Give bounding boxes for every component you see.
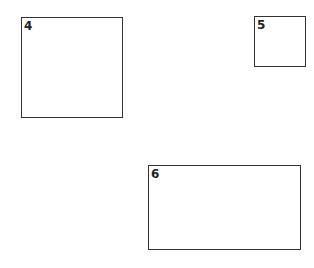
- box-6-label: 6: [151, 167, 159, 181]
- box-5-label: 5: [257, 18, 265, 32]
- box-6: 6: [148, 165, 301, 250]
- box-5: 5: [254, 16, 306, 67]
- box-4-label: 4: [24, 19, 32, 33]
- box-4: 4: [21, 17, 123, 118]
